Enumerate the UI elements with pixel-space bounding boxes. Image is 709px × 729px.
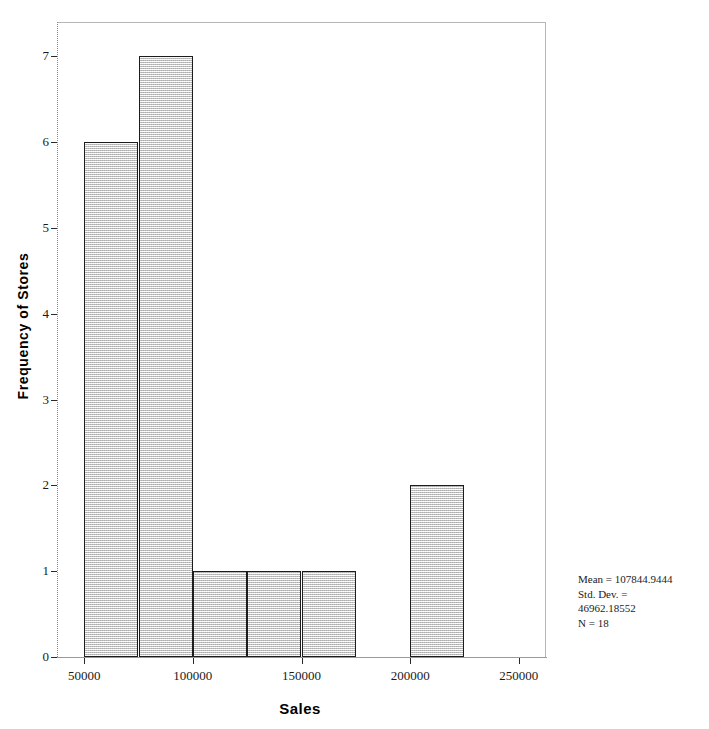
y-axis-tick: [51, 485, 57, 486]
histogram-chart: 0123456750000100000150000200000250000 Fr…: [0, 0, 709, 729]
x-axis-tick-label: 100000: [148, 668, 238, 683]
x-axis-tick: [410, 658, 411, 664]
y-axis-tick: [51, 56, 57, 57]
y-axis-tick: [51, 228, 57, 229]
y-axis-tick: [51, 314, 57, 315]
x-axis-tick-label: 200000: [365, 668, 455, 683]
histogram-bar: [84, 142, 138, 657]
x-axis-tick: [519, 658, 520, 664]
y-axis-title: Frequency of Stores: [15, 216, 31, 436]
histogram-bar: [193, 571, 247, 657]
y-axis-tick: [51, 657, 57, 658]
y-axis-tick: [51, 142, 57, 143]
histogram-bar: [139, 56, 193, 657]
y-axis-tick-label: 7: [5, 49, 49, 62]
std-dev-stat-label: Std. Dev. =: [578, 587, 703, 602]
y-axis-tick-label: 6: [5, 135, 49, 148]
x-axis-title: Sales: [0, 700, 600, 717]
y-axis-tick-label: 1: [5, 564, 49, 577]
x-axis-tick: [302, 658, 303, 664]
y-axis-tick-label: 0: [5, 650, 49, 663]
statistics-annotation: Mean = 107844.9444 Std. Dev. = 46962.185…: [578, 572, 703, 630]
x-axis-tick: [84, 658, 85, 664]
x-axis-tick-label: 150000: [257, 668, 347, 683]
x-axis-tick-label: 250000: [474, 668, 564, 683]
x-axis-tick: [193, 658, 194, 664]
std-dev-stat-value: 46962.18552: [578, 601, 703, 616]
y-axis-tick: [51, 571, 57, 572]
histogram-bar: [302, 571, 356, 657]
mean-stat: Mean = 107844.9444: [578, 572, 703, 587]
histogram-bar: [247, 571, 301, 657]
histogram-bar: [410, 485, 464, 657]
n-stat: N = 18: [578, 616, 703, 631]
y-axis-tick: [51, 400, 57, 401]
x-axis-tick-label: 50000: [39, 668, 129, 683]
y-axis-tick-label: 2: [5, 478, 49, 491]
